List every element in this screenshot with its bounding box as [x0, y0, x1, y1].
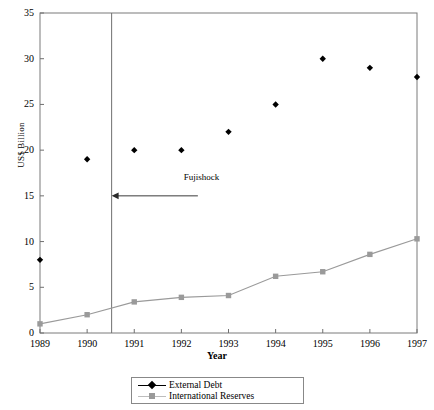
data-point-diamond	[131, 147, 137, 153]
x-axis-tick-label: 1991	[112, 339, 156, 349]
series-line-square	[40, 239, 417, 324]
x-axis-tick-label: 1994	[254, 339, 298, 349]
annotation-label-fujishock: Fujishock	[184, 172, 220, 182]
annotation-arrow-head	[112, 192, 119, 199]
legend-label-external-debt: External Debt	[169, 380, 222, 391]
legend-item-international-reserves: International Reserves	[138, 391, 297, 402]
x-axis-tick-label: 1993	[207, 339, 251, 349]
data-point-square	[414, 236, 419, 241]
y-axis-tick-label: 0	[8, 328, 34, 338]
data-point-square	[37, 321, 42, 326]
chart-container: US$ Billion Year 05101520253035198919901…	[0, 0, 434, 410]
data-point-diamond	[178, 147, 184, 153]
data-point-square	[179, 295, 184, 300]
data-point-square	[273, 274, 278, 279]
y-axis-tick-label: 20	[8, 145, 34, 155]
y-axis-tick-label: 15	[8, 191, 34, 201]
data-point-diamond	[84, 156, 90, 162]
y-axis-tick-label: 30	[8, 54, 34, 64]
x-axis-tick-label: 1989	[18, 339, 62, 349]
plot-border	[40, 13, 417, 333]
x-axis-tick-label: 1997	[395, 339, 434, 349]
chart-legend: External Debt International Reserves	[131, 377, 304, 404]
data-point-diamond	[367, 65, 373, 71]
y-axis-tick-label: 10	[8, 237, 34, 247]
x-axis-tick-label: 1990	[65, 339, 109, 349]
y-axis-tick-label: 25	[8, 99, 34, 109]
y-axis-tick-label: 5	[8, 282, 34, 292]
data-point-square	[320, 269, 325, 274]
data-point-square	[226, 293, 231, 298]
data-point-diamond	[37, 257, 43, 263]
square-marker-icon	[138, 391, 166, 402]
data-point-diamond	[272, 101, 278, 107]
data-point-diamond	[320, 56, 326, 62]
x-axis-tick-label: 1992	[159, 339, 203, 349]
x-axis-tick-label: 1996	[348, 339, 392, 349]
x-axis-tick-label: 1995	[301, 339, 345, 349]
data-point-diamond	[414, 74, 420, 80]
data-point-square	[132, 299, 137, 304]
diamond-marker-icon	[138, 380, 166, 391]
data-point-square	[84, 312, 89, 317]
data-point-square	[367, 252, 372, 257]
data-point-diamond	[225, 129, 231, 135]
y-axis-tick-label: 35	[8, 8, 34, 18]
legend-item-external-debt: External Debt	[138, 380, 297, 391]
legend-label-international-reserves: International Reserves	[169, 391, 254, 402]
